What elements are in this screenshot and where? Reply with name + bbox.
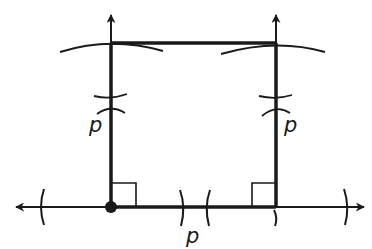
vertex-point: [105, 201, 117, 213]
compass-arc-top-right: [221, 45, 325, 54]
label-right-side: p: [284, 115, 297, 136]
label-left-side: p: [89, 115, 102, 136]
right-angle-mark-right: [252, 183, 276, 207]
geometry-diagram: [0, 0, 372, 249]
compass-arc-baseline-right-vertex: [274, 210, 276, 226]
label-bottom-segment: p: [186, 226, 199, 247]
